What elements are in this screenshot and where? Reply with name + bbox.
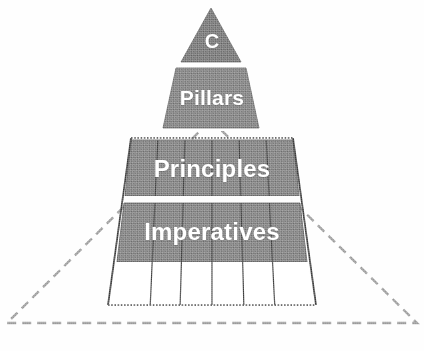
- pyramid-diagram: C Pillars Principles Imperatives: [0, 0, 424, 351]
- principles-imperatives-separator: [124, 196, 300, 203]
- pyramid-graphic: [0, 0, 424, 351]
- tier-pillars-shape: [163, 68, 259, 128]
- tier-capstone-shape: [181, 8, 241, 62]
